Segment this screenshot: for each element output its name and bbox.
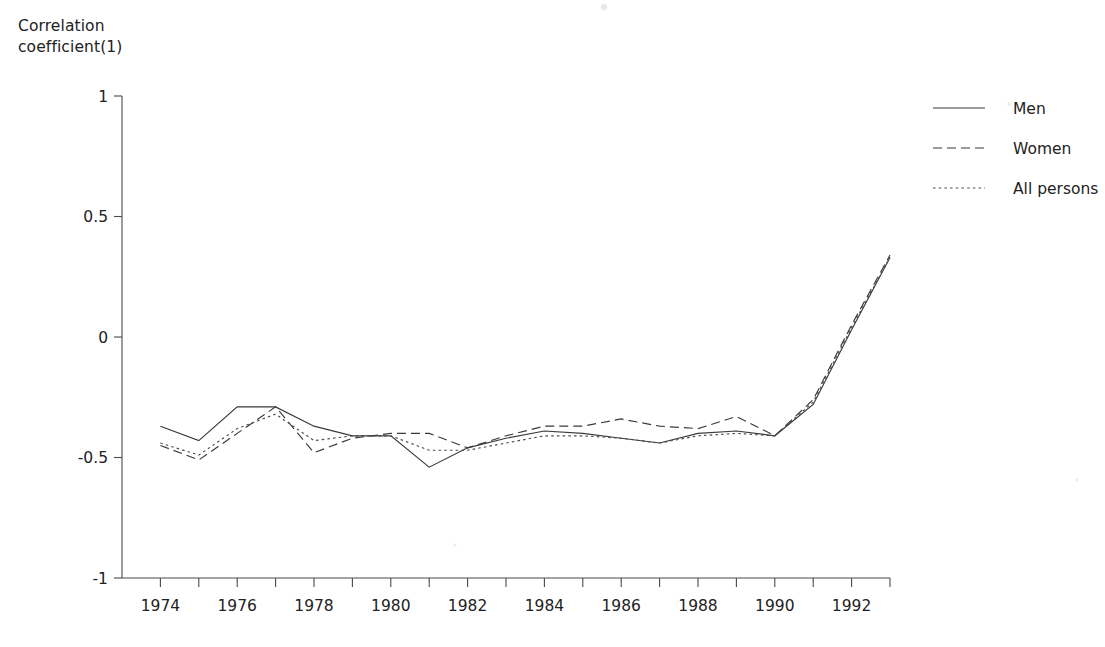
tick-labels-group: 10.50-0.5-119741976197819801982198419861… [78,88,872,616]
series-line-men [160,257,890,467]
x-tick-label: 1986 [601,597,640,615]
x-tick-label: 1988 [678,597,717,615]
y-tick-label: -0.5 [78,449,108,467]
x-tick-label: 1982 [448,597,487,615]
legend-label-men: Men [1013,100,1046,118]
plot-canvas: 10.50-0.5-119741976197819801982198419861… [0,0,1105,647]
x-tick-label: 1976 [217,597,256,615]
axes-group [114,96,890,587]
x-tick-label: 1980 [371,597,410,615]
legend-group: MenWomenAll persons [933,100,1098,198]
x-tick-label: 1978 [294,597,333,615]
x-tick-label: 1974 [141,597,180,615]
scan-speck [1007,102,1010,105]
y-tick-label: 0.5 [83,208,108,226]
x-tick-label: 1984 [525,597,564,615]
y-tick-label: 1 [98,88,108,106]
y-tick-label: 0 [98,329,108,347]
scan-speck [454,544,457,547]
legend-label-all-persons: All persons [1013,180,1098,198]
scan-speck [601,4,607,10]
chart-figure: Correlation coefficient(1) 10.50-0.5-119… [0,0,1105,647]
series-group [160,255,890,467]
series-line-women [160,255,890,460]
scan-speck [1076,479,1079,482]
scan-specks [454,4,1079,547]
x-tick-label: 1990 [755,597,794,615]
y-tick-label: -1 [93,570,108,588]
legend-label-women: Women [1013,140,1071,158]
x-tick-label: 1992 [832,597,871,615]
series-line-all-persons [160,257,890,455]
